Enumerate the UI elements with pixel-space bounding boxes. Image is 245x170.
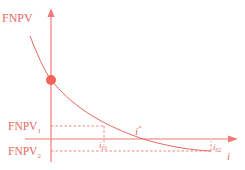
x-axis-label: i bbox=[227, 150, 230, 162]
i02-label: i02 bbox=[213, 142, 222, 153]
i01-label: i01 bbox=[99, 140, 108, 151]
fnpv-curve bbox=[30, 36, 211, 151]
x-axis bbox=[25, 136, 238, 143]
fnpv-irr-diagram: FNPV FNPV1 FNPV2 i* i01 i02 i bbox=[0, 0, 245, 170]
y-axis-label: FNPV bbox=[2, 11, 33, 25]
fnpv1-label: FNPV1 bbox=[8, 120, 41, 135]
istar-label: i* bbox=[135, 124, 142, 137]
intercept-dot bbox=[46, 75, 56, 85]
fnpv2-label: FNPV2 bbox=[8, 145, 41, 160]
